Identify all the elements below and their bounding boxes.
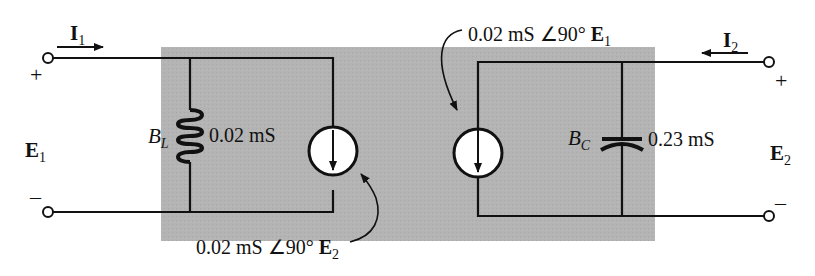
i1-label: I1 (70, 21, 85, 48)
port2-bottom-terminal[interactable] (764, 211, 774, 221)
two-port-circuit: I1 + – E1 BL 0.02 mS BC 0.23 mS 0.02 mS … (0, 0, 815, 276)
port2-top-terminal[interactable] (764, 57, 774, 67)
port1-top-terminal[interactable] (43, 53, 53, 63)
right-current-source[interactable] (454, 129, 502, 177)
inductor-value: 0.02 mS (209, 124, 276, 146)
e1-label: E1 (25, 138, 46, 165)
left-current-source[interactable] (309, 127, 357, 175)
port2-minus: – (774, 190, 787, 215)
port1-minus: – (29, 184, 42, 209)
port2-plus: + (775, 68, 787, 93)
e2-label: E2 (770, 141, 791, 168)
right-source-label: 0.02 mS ∠90° E1 (468, 23, 611, 49)
port1-plus: + (30, 62, 42, 87)
capacitor-value: 0.23 mS (648, 128, 715, 150)
port1-bottom-terminal[interactable] (43, 207, 53, 217)
i2-label: I2 (723, 28, 738, 55)
left-source-label: 0.02 mS ∠90° E2 (196, 236, 339, 262)
